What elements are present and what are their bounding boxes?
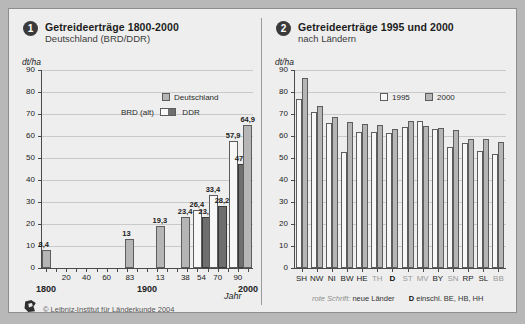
y-tick-label: 50 <box>272 154 288 162</box>
x-tick-mark <box>392 269 393 272</box>
x-tick-mark <box>86 269 87 272</box>
footnote-neue-laender: neue Länder <box>352 294 394 303</box>
x-tick-mark <box>187 269 188 272</box>
bar-value-label: 33,4 <box>206 185 221 194</box>
x-tick-mark <box>97 269 98 272</box>
bar-SN-2000 <box>453 130 459 268</box>
legend-swatch-brd-ddr <box>160 108 176 116</box>
bar-1883-deutschland <box>125 239 134 268</box>
x-tick-mark <box>66 269 67 272</box>
bar-SH-2000 <box>302 78 308 268</box>
bar-MV-2000 <box>423 126 429 268</box>
legend-label-2000: 2000 <box>437 93 455 102</box>
footnote-d-explain: einschl. BE, HB, HH <box>416 294 483 303</box>
bar-HE-2000 <box>362 124 368 268</box>
y-tick-label: 30 <box>272 198 288 206</box>
x-tick-mark <box>408 269 409 272</box>
x-tick-mark <box>177 269 178 272</box>
panel2-subtitle: nach Ländern <box>298 33 356 44</box>
x-tick-mark <box>377 269 378 272</box>
legend-label-deutschland: Deutschland <box>174 93 218 102</box>
x-tick-mark <box>238 269 239 272</box>
y-tick-label: 20 <box>19 220 35 228</box>
bar-value-label: 57,9 <box>226 131 241 140</box>
bar-1800-deutschland <box>42 250 51 268</box>
x-tick-mark <box>76 269 77 272</box>
x-tick-mark <box>117 269 118 272</box>
legend-swatch-1995 <box>380 93 388 101</box>
x-tick-mark <box>208 269 209 272</box>
panel1-badge: 1 <box>23 21 38 36</box>
bar-1913-deutschland <box>156 226 165 268</box>
gridline <box>41 92 253 93</box>
bar-value-label: 19,3 <box>153 216 168 225</box>
x-tick-mark <box>137 269 138 272</box>
y-tick-label: 0 <box>272 264 288 272</box>
legend-item-2000: 2000 <box>425 93 455 102</box>
legend-label-brd-alt: BRD (alt) <box>121 108 154 117</box>
gridline <box>41 70 253 71</box>
bar-value-label: 28,2 <box>215 196 230 205</box>
x-tick-mark <box>56 269 57 272</box>
legend-label-ddr: DDR <box>182 108 199 117</box>
y-tick-label: 0 <box>19 264 35 272</box>
x-tick-mark <box>423 269 424 272</box>
x-tick-mark <box>218 269 219 272</box>
y-tick-label: 30 <box>19 198 35 206</box>
x-tick-mark <box>438 269 439 272</box>
x-tick-mark <box>332 269 333 272</box>
x-tick-label: 83 <box>115 273 145 282</box>
y-tick-label: 70 <box>19 110 35 118</box>
bar-value-label: 13 <box>122 229 130 238</box>
legend-item-brd-ddr: BRD (alt) DDR <box>121 108 200 117</box>
gridline <box>41 158 253 159</box>
x-tick-mark <box>498 269 499 272</box>
y-tick-label: 40 <box>19 176 35 184</box>
panel2-badge: 2 <box>276 21 291 36</box>
x-tick-mark <box>157 269 158 272</box>
y-tick-label: 50 <box>19 154 35 162</box>
x-tick-mark <box>147 269 148 272</box>
bar-1938-deutschland <box>181 217 190 268</box>
y-tick-label: 20 <box>272 220 288 228</box>
y-tick-label: 70 <box>272 110 288 118</box>
bar-1970-ddr <box>218 206 227 268</box>
bar-BB-2000 <box>498 142 504 268</box>
y-tick-label: 10 <box>19 242 35 250</box>
y-tick-label: 60 <box>272 132 288 140</box>
x-tick-label: 1800 <box>31 284 61 294</box>
x-tick-mark <box>453 269 454 272</box>
x-tick-mark <box>302 269 303 272</box>
bar-NW-2000 <box>317 106 323 268</box>
x-tick-mark <box>228 269 229 272</box>
panel1-x-axis-label: Jahr <box>224 291 242 301</box>
x-tick-mark <box>107 269 108 272</box>
x-tick-label-BB: BB <box>486 274 510 283</box>
bar-value-label: 8,4 <box>39 240 49 249</box>
legend-swatch-deutschland <box>162 93 170 101</box>
legend-item-deutschland: Deutschland <box>162 93 218 102</box>
panel2-title: Getreideerträge 1995 und 2000 <box>298 21 454 33</box>
legend-label-1995: 1995 <box>392 93 410 102</box>
x-tick-mark <box>248 269 249 272</box>
footnote-d-marker: D <box>409 294 414 303</box>
gridline <box>294 70 506 71</box>
x-tick-mark <box>317 269 318 272</box>
panel1-title: Getreideerträge 1800-2000 <box>45 21 179 33</box>
bar-BY-2000 <box>438 128 444 268</box>
x-tick-label: 90 <box>223 273 253 282</box>
panel1-subtitle: Deutschland (BRD/DDR) <box>45 33 150 44</box>
y-tick-label: 80 <box>272 88 288 96</box>
y-axis <box>41 70 42 268</box>
bar-1970-brdalt <box>209 195 218 268</box>
y-tick-label: 10 <box>272 242 288 250</box>
panel-getreideertraege-1800-2000: 1 Getreideerträge 1800-2000 Deutschland … <box>9 9 261 312</box>
y-tick-label: 60 <box>19 132 35 140</box>
legend-swatch-2000 <box>425 93 433 101</box>
x-axis <box>294 268 506 269</box>
x-tick-label: 1900 <box>132 284 162 294</box>
x-tick-mark <box>347 269 348 272</box>
y-tick-label: 80 <box>19 88 35 96</box>
panel2-footnote: rote Schrift: neue Länder D einschl. BE,… <box>312 294 483 303</box>
x-tick-mark <box>197 269 198 272</box>
